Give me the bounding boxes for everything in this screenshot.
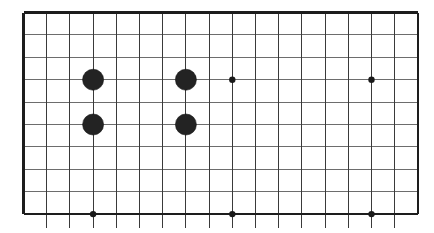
go-stone-black[interactable]: [175, 69, 196, 90]
go-board[interactable]: [0, 0, 434, 233]
star-point: [90, 211, 96, 217]
star-point: [368, 77, 374, 83]
star-point: [368, 211, 374, 217]
star-point: [229, 211, 235, 217]
go-board-canvas[interactable]: [0, 0, 434, 233]
go-stone-black[interactable]: [175, 114, 196, 135]
star-point: [229, 77, 235, 83]
go-stone-black[interactable]: [83, 69, 104, 90]
go-stone-black[interactable]: [83, 114, 104, 135]
screenshot-root: [0, 0, 434, 233]
